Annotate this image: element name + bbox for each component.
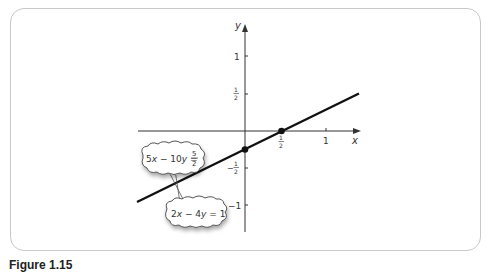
- y-tick-minus-1: −1: [228, 201, 241, 211]
- callout-text-2: 2x − 4y = 1: [171, 209, 225, 219]
- svg-text:1: 1: [279, 134, 283, 141]
- y-tick-half: 1 2: [234, 86, 240, 101]
- svg-text:2: 2: [234, 168, 238, 175]
- svg-text:2: 2: [279, 142, 283, 149]
- x-tick-1: 1: [323, 136, 329, 146]
- svg-text:5x − 10y =: 5x − 10y =: [146, 154, 198, 164]
- figure-caption: Figure 1.15: [9, 258, 72, 272]
- y-axis: [242, 24, 248, 232]
- y-axis-label: y: [234, 20, 242, 31]
- x-axis: [138, 128, 361, 134]
- y-intercept-point: [242, 146, 249, 153]
- svg-text:2: 2: [192, 160, 196, 168]
- svg-text:−: −: [227, 164, 234, 173]
- x-axis-label: x: [351, 135, 358, 146]
- x-axis-arrow-icon: [353, 128, 361, 134]
- y-tick-1: 1: [234, 52, 240, 62]
- y-axis-arrow-icon: [242, 24, 248, 32]
- x-intercept-point: [278, 128, 285, 135]
- y-tick-minus-half: − 1 2: [227, 160, 239, 175]
- x-tick-half: 1 2: [279, 134, 285, 149]
- svg-text:5: 5: [192, 150, 196, 158]
- svg-text:2: 2: [234, 94, 238, 101]
- svg-text:1: 1: [234, 86, 238, 93]
- svg-text:1: 1: [234, 160, 238, 167]
